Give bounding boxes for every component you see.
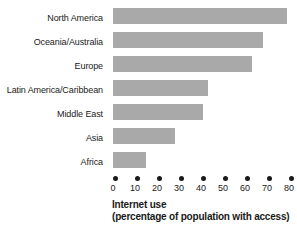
- axis-tick-label: 40: [189, 183, 213, 194]
- internet-use-bar-chart: North AmericaOceania/AustraliaEuropeLati…: [0, 0, 297, 238]
- bar-row: [113, 78, 289, 102]
- bar: [113, 56, 252, 72]
- axis-tick-dot-icon: [201, 176, 206, 181]
- axis-tick-label: 10: [123, 183, 147, 194]
- category-label: Latin America/Caribbean: [7, 85, 103, 95]
- bar-row: [113, 150, 289, 174]
- axis-tick-label: 80: [277, 183, 297, 194]
- axis-tick-label: 30: [167, 183, 191, 194]
- bar-row: [113, 54, 289, 78]
- axis-tick-dot-icon: [245, 176, 250, 181]
- axis-tick-label: 20: [145, 183, 169, 194]
- category-label-row: Middle East: [0, 102, 108, 126]
- category-label-row: North America: [0, 6, 108, 30]
- value-axis: 01020304050607080: [113, 176, 293, 200]
- axis-tick-label: 0: [101, 183, 125, 194]
- bar: [113, 32, 263, 48]
- bar: [113, 8, 287, 24]
- bar-row: [113, 102, 289, 126]
- bar: [113, 152, 146, 168]
- category-label-row: Europe: [0, 54, 108, 78]
- bar-row: [113, 126, 289, 150]
- category-label: Africa: [81, 157, 103, 167]
- axis-title-line: (percentage of population with access): [112, 211, 297, 223]
- axis-tick-dot-icon: [223, 176, 228, 181]
- category-label-row: Latin America/Caribbean: [0, 78, 108, 102]
- category-label: Middle East: [57, 109, 103, 119]
- bar: [113, 128, 175, 144]
- axis-tick-label: 50: [211, 183, 235, 194]
- bar-row: [113, 30, 289, 54]
- axis-tick-label: 60: [233, 183, 257, 194]
- plot-area: [113, 6, 289, 174]
- category-label-row: Asia: [0, 126, 108, 150]
- bar: [113, 104, 203, 120]
- category-label: Asia: [86, 133, 103, 143]
- category-label-row: Africa: [0, 150, 108, 174]
- axis-title-line: Internet use: [112, 199, 297, 211]
- axis-tick-label: 70: [255, 183, 279, 194]
- axis-tick-dot-icon: [179, 176, 184, 181]
- axis-tick-dot-icon: [289, 176, 294, 181]
- category-label: Europe: [75, 61, 103, 71]
- category-label: Oceania/Australia: [34, 37, 103, 47]
- axis-tick-dot-icon: [113, 176, 118, 181]
- category-axis-labels: North AmericaOceania/AustraliaEuropeLati…: [0, 6, 108, 174]
- axis-title: Internet use(percentage of population wi…: [112, 199, 297, 223]
- axis-tick-dot-icon: [157, 176, 162, 181]
- category-label: North America: [47, 13, 103, 23]
- bar-row: [113, 6, 289, 30]
- axis-tick-dot-icon: [135, 176, 140, 181]
- category-label-row: Oceania/Australia: [0, 30, 108, 54]
- bar: [113, 80, 208, 96]
- axis-tick-dot-icon: [267, 176, 272, 181]
